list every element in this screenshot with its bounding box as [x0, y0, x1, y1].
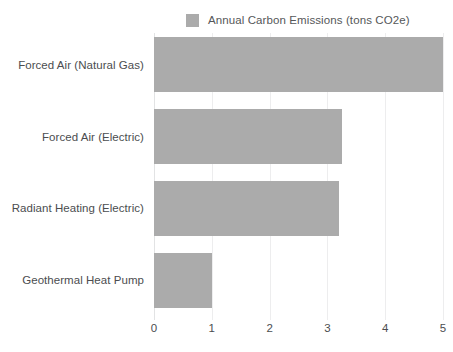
y-axis-label: Forced Air (Electric)	[42, 131, 144, 143]
x-axis-tick-label: 2	[266, 322, 272, 334]
x-axis-tick-label: 4	[382, 322, 388, 334]
bar	[154, 37, 443, 92]
x-axis-tick-label: 1	[209, 322, 215, 334]
bar	[154, 181, 339, 236]
x-axis-tick-label: 5	[440, 322, 446, 334]
y-axis-label: Forced Air (Natural Gas)	[18, 59, 144, 71]
y-axis-label: Geothermal Heat Pump	[22, 274, 144, 286]
x-axis-tick-label: 0	[151, 322, 157, 334]
bar	[154, 109, 342, 164]
bar-series	[154, 33, 443, 320]
bar-chart: Annual Carbon Emissions (tons CO2e) Forc…	[0, 0, 453, 352]
y-axis-category-labels: Forced Air (Natural Gas)Forced Air (Elec…	[0, 33, 144, 320]
plot-area	[154, 33, 443, 320]
legend-color-swatch-icon	[186, 14, 199, 27]
chart-legend: Annual Carbon Emissions (tons CO2e)	[186, 11, 410, 29]
bar	[154, 253, 212, 308]
x-axis-tick-labels: 012345	[154, 322, 443, 342]
legend-label: Annual Carbon Emissions (tons CO2e)	[208, 14, 410, 26]
x-axis-tick-label: 3	[324, 322, 330, 334]
y-axis-label: Radiant Heating (Electric)	[12, 202, 144, 214]
gridline	[443, 33, 444, 320]
